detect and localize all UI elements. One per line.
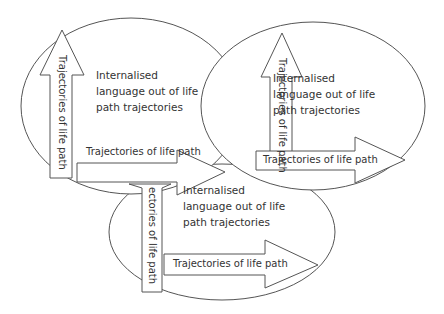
circle-text-line: Internalised (183, 183, 245, 197)
circle-text-line: language out of life (183, 199, 285, 213)
circle-bottom: Internalised language out of life path t… (0, 0, 444, 314)
circle-text-line: path trajectories (183, 215, 270, 229)
horizontal-arrow-label: Trajectories of life path (173, 258, 288, 269)
vertical-arrow-label: ectories of life path (147, 187, 158, 284)
